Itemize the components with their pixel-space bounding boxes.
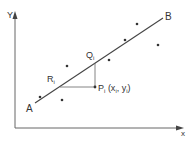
point-q-name: Q [86,50,93,60]
y-axis-label: Y [7,11,13,20]
point-p-label: Pi (xi, yi) [98,84,131,94]
data-point [157,44,160,47]
point-p-coord-close: ) [128,83,131,93]
data-point-p [94,86,97,89]
point-p-coord-sep: , y [117,83,127,93]
data-point [108,59,111,62]
data-point [61,99,64,102]
point-q-label: Qi [86,51,94,61]
data-point [39,96,42,99]
point-b-label: B [165,12,172,22]
point-r-subscript: i [54,79,55,85]
data-point [136,23,139,26]
point-r-label: Ri [47,75,55,85]
point-a-label: A [26,104,33,114]
data-point [66,65,69,68]
regression-diagram [0,0,191,142]
data-point [124,39,127,42]
x-axis-label: x [181,130,185,138]
point-q-subscript: i [93,55,94,61]
y-axis-arrow-icon [13,11,18,19]
point-p-subscript: i [104,88,105,94]
